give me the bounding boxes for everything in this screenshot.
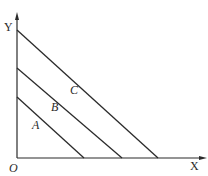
y-axis-label: Y — [4, 20, 13, 34]
x-axis-arrow-icon — [199, 156, 207, 160]
origin-label: O — [9, 161, 18, 175]
line-c — [17, 30, 158, 158]
x-axis — [17, 156, 207, 160]
diagram-canvas: Y X O A B C — [0, 0, 208, 176]
line-a-label: A — [31, 118, 40, 132]
y-axis-arrow-icon — [15, 12, 19, 20]
x-axis-label: X — [190, 159, 199, 173]
y-axis — [15, 12, 19, 158]
line-b-label: B — [51, 100, 59, 114]
line-c-label: C — [70, 83, 79, 97]
